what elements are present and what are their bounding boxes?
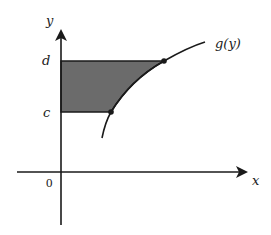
upper-intersection-point bbox=[161, 58, 167, 64]
shaded-region bbox=[61, 61, 164, 112]
level-d-label: d bbox=[42, 53, 50, 68]
lower-intersection-point bbox=[108, 109, 114, 115]
curve-label: g(y) bbox=[215, 36, 241, 51]
level-c-label: c bbox=[43, 105, 51, 120]
diagram-canvas: y x 0 d c g(y) bbox=[0, 0, 271, 235]
y-axis-label: y bbox=[45, 13, 54, 28]
origin-label: 0 bbox=[46, 175, 53, 190]
x-axis-label: x bbox=[252, 173, 260, 188]
